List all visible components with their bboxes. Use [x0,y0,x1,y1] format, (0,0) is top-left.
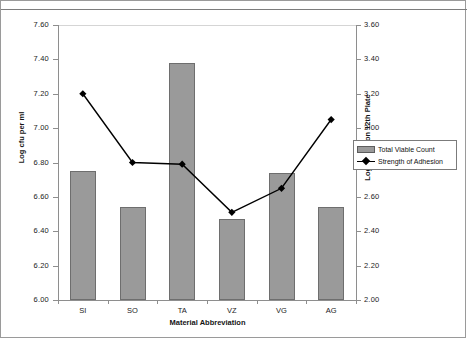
legend-item-total-viable-count: Total Viable Count [357,143,453,155]
y-axis-left-title: Log cfu per ml [17,78,26,198]
chart-legend: Total Viable Count Strength of Adhesion [353,140,457,170]
legend-label-total-viable-count: Total Viable Count [378,146,435,153]
y-axis-right-title: Log Count on 12th Plate [363,68,372,208]
chart-plot-wrapper: 6.006.206.406.606.807.007.207.407.60 2.0… [1,1,467,338]
x-axis-title: Material Abbreviation [58,318,357,327]
legend-bar-swatch-icon [357,146,375,153]
legend-item-strength-of-adhesion: Strength of Adhesion [357,155,453,167]
legend-label-strength-of-adhesion: Strength of Adhesion [378,158,443,165]
legend-line-swatch-icon [357,157,375,166]
